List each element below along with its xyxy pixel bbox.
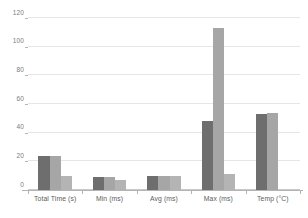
bar: [170, 176, 181, 190]
y-axis-tick-mark: [25, 104, 28, 105]
bar-set: [93, 18, 127, 190]
bar: [267, 113, 278, 190]
bar-set: [202, 18, 236, 190]
x-axis-tick-label: Total Time (s): [28, 195, 82, 202]
y-axis-tick-label: 80: [17, 65, 24, 72]
y-axis-tick-label: 100: [13, 37, 24, 44]
y-axis-tick-label: 20: [17, 151, 24, 158]
x-axis-tick-label: Temp (°C): [246, 195, 300, 202]
bar-set: [147, 18, 181, 190]
x-axis-tick-label: Avg (ms): [137, 195, 191, 202]
bar: [93, 177, 104, 190]
x-axis-tick-label: Max (ms): [191, 195, 245, 202]
x-axis-tick-mark: [82, 190, 83, 194]
bar-group: [82, 18, 136, 190]
x-axis-line: [22, 190, 303, 191]
x-axis-tick-mark: [191, 190, 192, 194]
bar: [158, 176, 169, 190]
bar: [38, 156, 49, 190]
y-axis-tick-label: 120: [13, 8, 24, 15]
x-axis-tick-label: Min (ms): [82, 195, 136, 202]
bar: [104, 177, 115, 190]
x-axis-tick-mark: [300, 190, 301, 194]
plot-area: 020406080100120: [28, 18, 300, 190]
x-axis-tick-mark: [28, 190, 29, 194]
bar: [147, 176, 158, 190]
bar: [115, 180, 126, 190]
y-axis-tick-mark: [25, 18, 28, 19]
y-axis-tick-label: 60: [17, 94, 24, 101]
x-axis-tick-mark: [246, 190, 247, 194]
bar: [256, 114, 267, 190]
bar-set: [38, 18, 72, 190]
bar-group: [246, 18, 300, 190]
bar: [202, 121, 213, 190]
y-axis-tick-mark: [25, 47, 28, 48]
y-axis-tick-label: 40: [17, 123, 24, 130]
bar: [213, 28, 224, 190]
bar-chart: 020406080100120 Total Time (s)Min (ms)Av…: [0, 0, 308, 218]
bar: [50, 156, 61, 190]
bar-group: [137, 18, 191, 190]
y-axis-tick-mark: [25, 161, 28, 162]
bar: [61, 176, 72, 190]
bar-group: [191, 18, 245, 190]
bar-group: [28, 18, 82, 190]
x-axis-labels: Total Time (s)Min (ms)Avg (ms)Max (ms)Te…: [28, 195, 300, 202]
y-axis-tick-mark: [25, 133, 28, 134]
bar-set: [256, 18, 290, 190]
bar-groups: [28, 18, 300, 190]
x-axis-tick-mark: [137, 190, 138, 194]
bar: [224, 174, 235, 190]
y-axis-tick-label: 0: [20, 180, 24, 187]
y-axis-tick-mark: [25, 75, 28, 76]
